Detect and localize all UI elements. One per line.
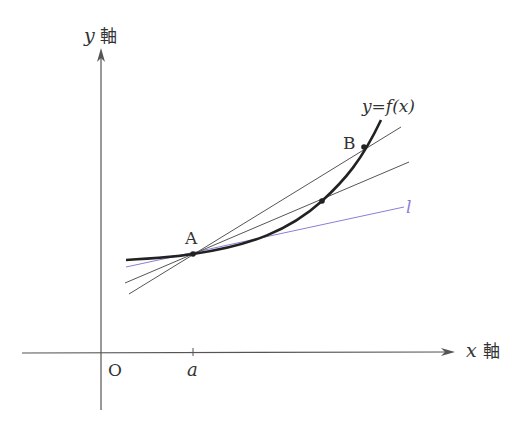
tick-a-label: a xyxy=(187,359,198,380)
point-A-label: A xyxy=(184,228,198,248)
diagram-canvas: y 軸 x 軸 O a A B y=f(x) l xyxy=(0,0,532,430)
point-B-label: B xyxy=(343,133,356,153)
x-axis-label-suffix: 軸 xyxy=(483,341,500,361)
tangent-label: l xyxy=(406,197,411,217)
x-axis xyxy=(22,352,448,353)
origin-label: O xyxy=(108,360,122,380)
x-axis-label-var: x xyxy=(466,339,477,361)
point-A xyxy=(190,251,196,257)
secant-line-intermediate xyxy=(125,162,409,283)
y-axis-label-suffix: 軸 xyxy=(100,26,117,46)
secant-line-AB xyxy=(129,127,401,294)
y-axis-label-var: y xyxy=(83,24,95,46)
point-intermediate xyxy=(319,198,325,204)
curve-label: y=f(x) xyxy=(361,96,415,116)
point-B xyxy=(361,144,367,150)
